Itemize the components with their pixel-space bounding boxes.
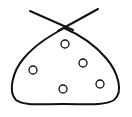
circle-1 bbox=[61, 40, 69, 48]
circle-2 bbox=[79, 59, 87, 67]
circles-group bbox=[29, 40, 104, 93]
sack-diagram bbox=[0, 0, 132, 117]
circle-3 bbox=[29, 66, 37, 74]
circle-4 bbox=[59, 85, 67, 93]
circle-5 bbox=[96, 80, 104, 88]
